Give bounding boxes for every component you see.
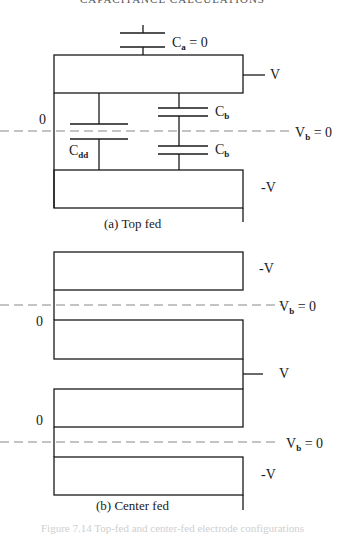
- electrode-1: [54, 252, 243, 290]
- label-b-zero-lower: 0: [36, 414, 43, 428]
- label-ca: Ca = 0: [172, 36, 208, 52]
- figure-b-center-fed: [54, 252, 263, 510]
- caption-b: (b) Center fed: [96, 498, 169, 514]
- electrode-3: [54, 389, 243, 427]
- label-v-bottom: -V: [261, 181, 276, 195]
- label-b-vb-upper: Vb = 0: [279, 300, 316, 316]
- label-b-v-top: -V: [259, 262, 274, 276]
- electrode-4: [54, 457, 243, 495]
- label-cb-upper: Cb: [215, 105, 229, 121]
- label-v-top: V: [270, 68, 280, 82]
- electrode-diagram: [0, 0, 345, 534]
- label-cb-lower: Cb: [215, 143, 229, 159]
- label-b-zero-upper: 0: [36, 315, 43, 329]
- label-b-v-bottom: -V: [261, 468, 276, 482]
- bottom-electrode: [54, 170, 243, 208]
- electrode-2: [54, 320, 243, 359]
- figure-caption: Figure 7.14 Top-fed and center-fed elect…: [0, 522, 345, 534]
- label-vb-a: Vb = 0: [295, 126, 332, 142]
- label-zero: 0: [39, 113, 46, 127]
- caption-a: (a) Top fed: [104, 216, 161, 232]
- figure-a-top-fed: [54, 25, 265, 222]
- label-b-vb-lower: Vb = 0: [286, 437, 323, 453]
- top-electrode: [54, 55, 243, 93]
- label-b-v-center: V: [279, 367, 289, 381]
- label-cdd: Cdd: [69, 144, 88, 160]
